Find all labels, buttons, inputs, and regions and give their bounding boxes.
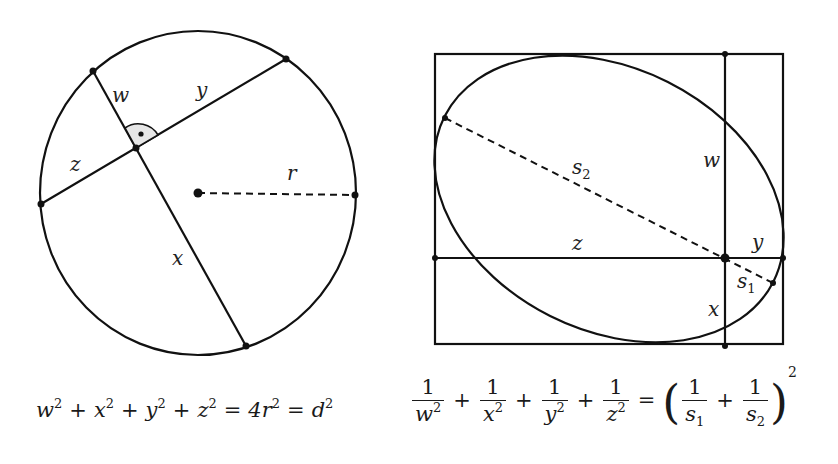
denominator: y2 (542, 401, 568, 428)
numerator: 1 (682, 375, 707, 401)
term-x: x (94, 398, 106, 422)
label-w: w (112, 83, 129, 107)
label-s2: s2 (572, 155, 591, 182)
chord-zy (41, 59, 286, 204)
horizontal-left-point (432, 255, 438, 261)
term-z: z (197, 398, 208, 422)
fraction-s1: 1s1 (682, 375, 707, 428)
denominator: s1 (682, 401, 707, 428)
plus: + (709, 388, 741, 412)
denominator: z2 (603, 401, 628, 428)
numerator: 1 (743, 375, 768, 401)
plus: + (570, 388, 602, 412)
chord-wx (93, 71, 246, 346)
numerator: 1 (480, 375, 506, 401)
s2-endpoint (442, 115, 448, 121)
plus: + (508, 388, 540, 412)
bounding-rectangle (435, 54, 783, 344)
plus: + (114, 398, 146, 422)
fraction-w: 1w2 (412, 375, 444, 428)
term-4r: 4r (248, 398, 271, 422)
label-z-right: z (571, 231, 583, 255)
chord-intersection-point (133, 145, 140, 152)
denominator: x2 (480, 401, 506, 428)
term-y: y (146, 398, 158, 422)
chord-endpoint-z (38, 201, 45, 208)
numerator: 1 (603, 375, 628, 401)
exponent: 2 (208, 396, 216, 411)
plus: + (446, 388, 478, 412)
label-y: y (195, 78, 208, 102)
label-y-right: y (751, 230, 764, 254)
formula-reciprocal-squares: 1w2+1x2+1y2+1z2=(1s1+1s2)2 (410, 372, 797, 428)
equals: = (280, 398, 312, 422)
fraction-s2: 1s2 (743, 375, 768, 428)
equals: = (631, 388, 663, 412)
close-paren: ) (770, 375, 788, 429)
fraction-x: 1x2 (480, 375, 506, 428)
label-x-right: x (708, 297, 719, 321)
exponent: 2 (325, 396, 333, 411)
right-angle-dot (138, 131, 143, 136)
formula-sum-of-squares: w2+x2+y2+z2=4r2=d2 (36, 398, 333, 422)
denominator: s2 (743, 401, 768, 428)
exponent: 2 (272, 396, 280, 411)
chord-endpoint-w (90, 68, 97, 75)
s1-endpoint (770, 280, 776, 286)
label-x: x (172, 246, 183, 270)
numerator: 1 (542, 375, 568, 401)
open-paren: ( (662, 375, 680, 429)
vertical-bottom-point (722, 343, 728, 349)
fraction-y: 1y2 (542, 375, 568, 428)
plus: + (62, 398, 94, 422)
label-z: z (69, 152, 81, 176)
plus: + (166, 398, 198, 422)
center-point (194, 189, 203, 198)
numerator: 1 (412, 375, 444, 401)
fraction-z: 1z2 (603, 375, 628, 428)
outer-exponent: 2 (788, 364, 797, 380)
ellipse-figure: s2 w z y s1 x (386, 0, 832, 399)
term-w: w (36, 398, 54, 422)
denominator: w2 (412, 401, 444, 428)
term-d: d (312, 398, 325, 422)
vertical-top-point (722, 51, 728, 57)
ellipse (386, 0, 832, 399)
circle-figure: w y z r x (38, 31, 359, 355)
radius-line (198, 193, 355, 195)
equals: = (217, 398, 249, 422)
chord-endpoint-x (243, 343, 250, 350)
exponent: 2 (106, 396, 114, 411)
exponent: 2 (157, 396, 165, 411)
chord-endpoint-y (283, 56, 290, 63)
radius-endpoint (352, 192, 359, 199)
label-w-right: w (703, 148, 720, 172)
horizontal-right-point (780, 255, 786, 261)
label-r: r (287, 161, 298, 185)
label-s1: s1 (737, 269, 756, 296)
lines-intersection-point (721, 254, 730, 263)
